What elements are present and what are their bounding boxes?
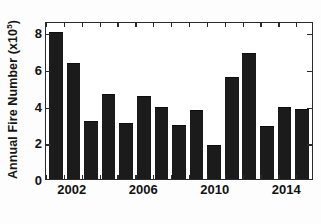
x-tick-mark [260, 23, 261, 27]
y-axis-label: Annual Fire Number (x105) [5, 20, 20, 179]
x-tick-mark [207, 175, 208, 179]
y-tick-label-6: 6 [22, 63, 42, 76]
x-tick-mark [46, 175, 47, 179]
bar-cell [170, 23, 188, 179]
chart-figure: Annual Fire Number (x105) 02468 20022006… [0, 0, 321, 224]
bar-series [46, 23, 312, 179]
bar-2011 [225, 77, 239, 179]
bar-cell [205, 23, 223, 179]
bar-cell [188, 23, 206, 179]
bar-2012 [242, 53, 256, 179]
x-tick-mark [296, 23, 297, 27]
bar-2013 [260, 126, 274, 180]
bar-2010 [207, 145, 221, 179]
y-axis-tick-labels: 02468 [22, 0, 42, 224]
x-tick-mark [64, 23, 65, 27]
x-tick-mark [243, 175, 244, 179]
bar-2009 [190, 110, 204, 179]
bar-cell [223, 23, 241, 179]
x-tick-mark [117, 175, 118, 179]
y-tick-mark [46, 71, 51, 72]
y-tick-mark [46, 144, 51, 145]
bar-2007 [155, 107, 169, 179]
bar-cell [258, 23, 276, 179]
x-axis-tick-labels: 2002200620102014 [45, 182, 313, 206]
x-tick-label-2006: 2006 [129, 182, 158, 197]
x-tick-mark [100, 175, 101, 179]
x-tick-mark [171, 23, 172, 27]
x-tick-mark [260, 175, 261, 179]
x-tick-mark [135, 23, 136, 27]
bar-2003 [84, 121, 98, 179]
x-tick-mark [243, 23, 244, 27]
x-tick-mark [46, 23, 47, 27]
x-tick-mark [189, 23, 190, 27]
x-tick-label-2014: 2014 [272, 182, 301, 197]
x-tick-mark [64, 175, 65, 179]
x-tick-mark [82, 175, 83, 179]
bar-cell [100, 23, 118, 179]
y-tick-label-4: 4 [22, 100, 42, 113]
bar-cell [153, 23, 171, 179]
y-tick-label-0: 0 [22, 174, 42, 187]
bar-cell [47, 23, 65, 179]
plot-area [45, 22, 313, 180]
bar-2006 [137, 96, 151, 179]
x-tick-mark [135, 175, 136, 179]
x-tick-mark [278, 23, 279, 27]
y-tick-mark [46, 108, 51, 109]
y-tick-mark [46, 34, 51, 35]
bar-2001 [49, 32, 63, 179]
x-tick-mark [296, 175, 297, 179]
bar-2002 [67, 63, 81, 179]
bar-cell [82, 23, 100, 179]
x-tick-mark [82, 23, 83, 27]
bar-2004 [102, 94, 116, 179]
y-tick-mark [307, 108, 312, 109]
y-tick-label-2: 2 [22, 137, 42, 150]
bar-cell [293, 23, 311, 179]
x-tick-mark [117, 23, 118, 27]
bar-cell [65, 23, 83, 179]
y-tick-mark [307, 71, 312, 72]
x-tick-mark [225, 175, 226, 179]
bar-2008 [172, 125, 186, 179]
y-axis-label-suffix: ) [7, 20, 21, 24]
bar-2014 [278, 107, 292, 179]
y-axis-label-exponent: 5 [5, 25, 14, 30]
bar-cell [135, 23, 153, 179]
x-tick-label-2002: 2002 [57, 182, 86, 197]
x-tick-mark [278, 175, 279, 179]
x-tick-mark [100, 23, 101, 27]
bar-cell [241, 23, 259, 179]
y-tick-mark [307, 144, 312, 145]
x-tick-mark [189, 175, 190, 179]
x-tick-mark [153, 23, 154, 27]
x-tick-mark [225, 23, 226, 27]
x-tick-mark [171, 175, 172, 179]
x-tick-mark [153, 175, 154, 179]
bar-cell [276, 23, 294, 179]
bar-2005 [119, 123, 133, 179]
y-tick-label-8: 8 [22, 27, 42, 40]
x-tick-label-2010: 2010 [200, 182, 229, 197]
y-axis-label-text: Annual Fire Number (x10 [7, 29, 21, 179]
y-tick-mark [307, 34, 312, 35]
bar-cell [117, 23, 135, 179]
x-tick-mark [207, 23, 208, 27]
